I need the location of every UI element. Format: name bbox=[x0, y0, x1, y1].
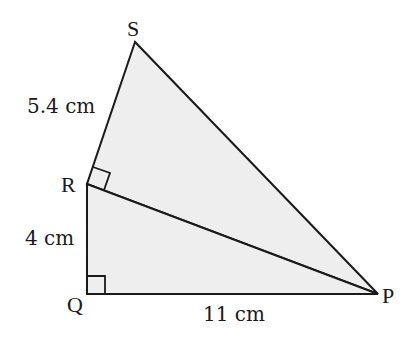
measurement-rs: 5.4 cm bbox=[27, 94, 95, 118]
geometry-diagram: S R Q P 5.4 cm 4 cm 11 cm bbox=[0, 0, 412, 337]
vertex-label-p: P bbox=[382, 283, 394, 308]
vertex-label-q: Q bbox=[67, 292, 83, 317]
vertex-label-r: R bbox=[61, 172, 76, 197]
vertex-label-s: S bbox=[127, 16, 139, 41]
measurement-qp: 11 cm bbox=[203, 302, 265, 326]
measurement-qr: 4 cm bbox=[25, 226, 74, 250]
